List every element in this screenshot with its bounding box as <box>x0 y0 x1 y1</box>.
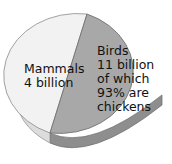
label-birds: Birds 11 billion of which 93% are chicke… <box>97 43 154 114</box>
svg-text:11 billion: 11 billion <box>97 57 154 72</box>
svg-text:chickens: chickens <box>97 99 151 114</box>
svg-text:Birds: Birds <box>97 43 128 58</box>
svg-text:of which: of which <box>97 71 149 86</box>
pie-chart: Mammals 4 billion Birds 11 billion of wh… <box>0 0 172 164</box>
svg-text:93% are: 93% are <box>97 85 149 100</box>
svg-text:4 billion: 4 billion <box>24 75 73 90</box>
svg-text:Mammals: Mammals <box>24 61 84 76</box>
